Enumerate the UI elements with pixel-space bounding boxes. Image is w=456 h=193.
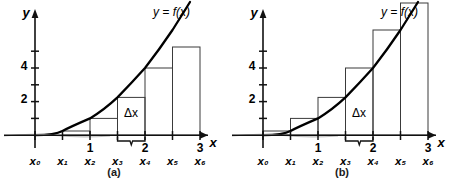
y-axis-a <box>32 9 39 148</box>
x-tick-label-b-3: 3 <box>425 141 432 155</box>
curve-b <box>263 2 418 135</box>
plot-b: y x y = f(x) Δx 2 4 1 2 3 x₀ x₁ x₂ x₃ x₄… <box>228 0 456 165</box>
partition-label-a-3: x₃ <box>111 155 123 165</box>
rect-b-4 <box>346 68 374 135</box>
rectangles-b <box>263 3 428 135</box>
x-tick-label-a-1: 1 <box>87 141 94 155</box>
panel-b: y x y = f(x) Δx 2 4 1 2 3 x₀ x₁ x₂ x₃ x₄… <box>228 0 456 165</box>
partition-labels-a: x₀ x₁ x₂ x₃ x₄ x₅ x₆ <box>29 155 206 165</box>
y-axis-label-a: y <box>21 5 30 20</box>
partition-label-b-1: x₁ <box>284 155 295 165</box>
delta-x-label-b: Δx <box>352 106 366 120</box>
y-tick-label-a-2: 2 <box>21 92 28 106</box>
partition-label-a-4: x₄ <box>138 155 150 165</box>
curve-a <box>35 2 190 135</box>
rect-a-6 <box>173 47 201 135</box>
riemann-sum-figure: y x y = f(x) Δx 2 4 1 2 3 x₀ x₁ x₂ x₃ x₄… <box>0 0 456 193</box>
y-tick-label-a-4: 4 <box>21 59 28 73</box>
partition-label-b-5: x₅ <box>394 155 406 165</box>
x-tick-label-a-3: 3 <box>197 141 204 155</box>
partition-label-a-1: x₁ <box>56 155 67 165</box>
plot-a: y x y = f(x) Δx 2 4 1 2 3 x₀ x₁ x₂ x₃ x₄… <box>0 0 228 165</box>
y-axis-label-b: y <box>249 5 258 20</box>
rect-a-3 <box>90 118 118 135</box>
function-label-b: y = f(x) <box>380 5 418 19</box>
partition-label-b-6: x₆ <box>422 155 434 165</box>
panel-caption-b: (b) <box>228 166 456 178</box>
x-tick-label-b-2: 2 <box>370 141 377 155</box>
y-tick-label-b-4: 4 <box>249 59 256 73</box>
partition-label-a-6: x₆ <box>194 155 206 165</box>
partition-label-b-2: x₂ <box>312 155 324 165</box>
figure-caption-cropped <box>0 185 456 193</box>
partition-label-b-4: x₄ <box>366 155 378 165</box>
panel-caption-a: (a) <box>0 166 228 178</box>
panel-a: y x y = f(x) Δx 2 4 1 2 3 x₀ x₁ x₂ x₃ x₄… <box>0 0 228 165</box>
function-label-a: y = f(x) <box>152 5 190 19</box>
partition-label-b-0: x₀ <box>257 155 269 165</box>
partition-label-a-2: x₂ <box>84 155 96 165</box>
delta-x-label-a: Δx <box>124 106 138 120</box>
x-tick-label-a-2: 2 <box>142 141 149 155</box>
x-axis-label-a: x <box>208 135 217 150</box>
partition-label-a-5: x₅ <box>166 155 178 165</box>
y-axis-b <box>260 9 267 148</box>
rect-a-5 <box>145 68 173 135</box>
partition-labels-b: x₀ x₁ x₂ x₃ x₄ x₅ x₆ <box>257 155 434 165</box>
partition-label-b-3: x₃ <box>339 155 351 165</box>
partition-label-a-0: x₀ <box>29 155 41 165</box>
x-axis-label-b: x <box>436 135 445 150</box>
x-tick-label-b-1: 1 <box>315 141 322 155</box>
y-tick-label-b-2: 2 <box>249 92 256 106</box>
rect-b-5 <box>373 30 401 135</box>
